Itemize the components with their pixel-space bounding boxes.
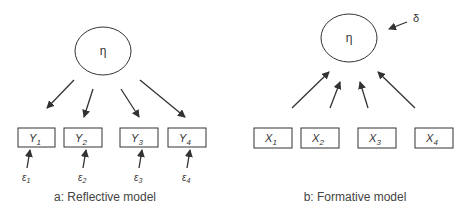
path-arrow-x1-eta bbox=[292, 72, 329, 108]
error-label-e1: ε1 bbox=[22, 172, 30, 184]
path-arrow-x3-eta bbox=[360, 82, 368, 108]
error-arrow-e4 bbox=[187, 150, 190, 168]
disturbance-arrow bbox=[389, 22, 407, 29]
path-arrow-eta-y3 bbox=[121, 89, 139, 117]
indicator-label-x1: X1 bbox=[264, 132, 277, 147]
indicator-label-x2: X2 bbox=[311, 132, 324, 147]
error-label-e2: ε2 bbox=[78, 172, 86, 184]
indicator-label-y2: Y2 bbox=[75, 132, 87, 147]
path-arrow-eta-y4 bbox=[140, 80, 185, 117]
path-arrow-eta-y1 bbox=[47, 80, 74, 108]
latent-eta-label: η bbox=[100, 44, 107, 58]
error-arrow-e2 bbox=[83, 150, 86, 168]
path-arrow-x4-eta bbox=[378, 72, 415, 108]
formative-model: η δ X1 X2 X3 X4 b: Formative model bbox=[254, 12, 453, 204]
indicator-label-x4: X4 bbox=[425, 132, 438, 147]
reflective-model: η Y1 Y2 Y3 Y4 ε1 ε2 ε3 ε4 a: Reflective … bbox=[18, 27, 206, 204]
disturbance-label: δ bbox=[413, 12, 419, 24]
path-arrow-eta-y2 bbox=[84, 89, 93, 117]
indicator-label-y1: Y1 bbox=[29, 132, 41, 147]
diagram-canvas: η Y1 Y2 Y3 Y4 ε1 ε2 ε3 ε4 a: Reflective … bbox=[0, 0, 467, 211]
reflective-caption: a: Reflective model bbox=[54, 190, 156, 204]
error-label-e3: ε3 bbox=[134, 172, 142, 184]
error-arrow-e1 bbox=[27, 150, 30, 168]
indicator-label-y3: Y3 bbox=[131, 132, 143, 147]
indicator-label-y4: Y4 bbox=[179, 132, 191, 147]
indicator-label-x3: X3 bbox=[368, 132, 381, 147]
error-label-e4: ε4 bbox=[182, 172, 190, 184]
error-arrow-e3 bbox=[139, 150, 142, 168]
path-arrow-x2-eta bbox=[330, 82, 340, 108]
latent-eta-label-formative: η bbox=[346, 31, 353, 45]
formative-caption: b: Formative model bbox=[304, 190, 407, 204]
